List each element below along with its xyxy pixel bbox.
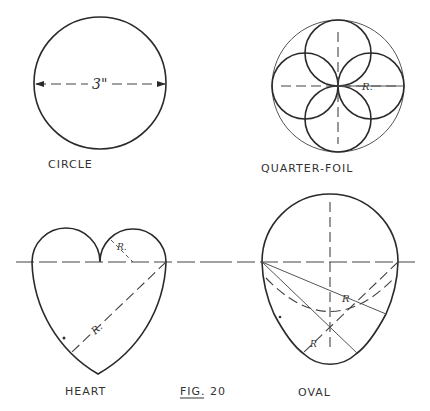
center-dot — [63, 337, 66, 340]
oval-radius-line — [262, 262, 386, 314]
heart-large-radius-label: R. — [88, 321, 104, 337]
oval-label: OVAL — [298, 386, 331, 399]
oval-large-radius-label: R — [341, 293, 350, 304]
oval-drawing: R R OVAL — [214, 194, 415, 399]
circle-label: CIRCLE — [48, 158, 93, 171]
heart-large-radius-line — [72, 262, 166, 352]
center-dot — [279, 316, 282, 319]
arrowhead-left-icon — [35, 81, 44, 87]
quarter-foil-drawing: R. QUARTER-FOIL — [261, 20, 404, 175]
circle-drawing: 3" CIRCLE — [34, 17, 166, 171]
heart-small-radius-label: R. — [116, 242, 127, 252]
heart-outline — [32, 228, 166, 374]
figure-number: FIG. 20 — [180, 385, 226, 398]
quarter-foil-radius-label: R. — [361, 81, 373, 92]
heart-label: HEART — [65, 385, 106, 398]
arrowhead-right-icon — [157, 81, 166, 87]
oval-small-radius-label: R — [309, 339, 317, 349]
heart-drawing: R. R. HEART — [16, 228, 214, 398]
circle-dimension: 3" — [92, 76, 107, 92]
quarter-foil-label: QUARTER-FOIL — [261, 162, 353, 175]
figure-caption: FIG. 20 — [180, 385, 226, 398]
figure-20-drawing: 3" CIRCLE R. QUARTER-FOIL R. R. HEART FI… — [0, 0, 430, 411]
